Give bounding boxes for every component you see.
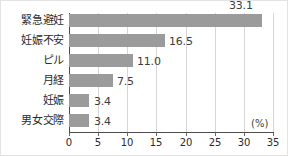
- tick-mark: [273, 133, 274, 136]
- bar: [69, 74, 113, 87]
- bar-value-label: 7.5: [117, 74, 134, 87]
- tick-mark: [186, 133, 187, 136]
- bar-value-label: 3.4: [94, 114, 111, 127]
- bar-chart: 緊急避妊 妊娠不安 ピル 月経 妊娠 男女交際 33.1: [0, 0, 288, 156]
- category-label: 妊娠不安: [21, 34, 64, 47]
- tick-mark: [98, 133, 99, 136]
- bar-value-label: 33.1: [229, 0, 253, 12]
- x-tick-label: 0: [66, 137, 72, 148]
- x-tick-label: 30: [238, 137, 251, 148]
- category-label: ピル: [43, 54, 64, 67]
- bar-value-label: 11.0: [137, 54, 161, 67]
- tick-mark: [69, 133, 70, 136]
- gridline-15: [156, 13, 157, 132]
- gridline-25: [215, 13, 216, 132]
- gridline-20: [186, 13, 187, 132]
- category-label-row: 妊娠不安: [1, 34, 69, 47]
- x-tick-label: 15: [150, 137, 163, 148]
- gridline-35: [273, 13, 274, 132]
- category-label: 男女交際: [21, 114, 64, 127]
- bar: [69, 94, 89, 107]
- x-tick-label: 10: [121, 137, 134, 148]
- bar: [69, 114, 89, 127]
- tick-mark: [127, 133, 128, 136]
- category-label-row: ピル: [1, 54, 69, 67]
- tick-mark: [156, 133, 157, 136]
- category-label: 妊娠: [43, 94, 64, 107]
- bar: [69, 14, 262, 27]
- bar-value-label: 16.5: [169, 34, 193, 47]
- x-tick-label: 25: [209, 137, 222, 148]
- category-label: 月経: [43, 74, 64, 87]
- tick-mark: [215, 133, 216, 136]
- bar-value-label: 3.4: [94, 94, 111, 107]
- x-tick-label: 35: [267, 137, 280, 148]
- category-label-row: 男女交際: [1, 114, 69, 127]
- tick-mark: [244, 133, 245, 136]
- unit-label: (%): [251, 118, 268, 129]
- category-label-row: 妊娠: [1, 94, 69, 107]
- bar: [69, 34, 165, 47]
- plot-area: 33.1 16.5 11.0 7.5 3.4 3.4: [69, 13, 273, 132]
- bar: [69, 54, 133, 67]
- x-tick-label: 5: [95, 137, 101, 148]
- x-tick-label: 20: [180, 137, 193, 148]
- category-label-row: 緊急避妊: [1, 14, 69, 27]
- gridline-30: [244, 13, 245, 132]
- gridline-10: [127, 13, 128, 132]
- category-label: 緊急避妊: [21, 14, 64, 27]
- category-label-row: 月経: [1, 74, 69, 87]
